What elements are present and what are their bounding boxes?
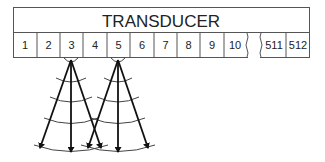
element-label: 4 <box>92 39 98 51</box>
element-label: 5 <box>115 39 121 51</box>
transducer-diagram: TRANSDUCER 1 2 3 4 5 6 7 8 9 10 511 512 <box>0 0 325 162</box>
element-label: 2 <box>45 39 51 51</box>
element-label: 512 <box>289 39 307 51</box>
element-label: 511 <box>265 39 283 51</box>
element-label: 7 <box>162 39 168 51</box>
element-label: 8 <box>185 39 191 51</box>
beam-element-5 <box>81 58 155 152</box>
break-mark <box>246 33 262 58</box>
title-label: TRANSDUCER <box>102 12 220 31</box>
beam-element-3 <box>34 58 108 152</box>
element-label: 9 <box>209 39 215 51</box>
element-label: 6 <box>139 39 145 51</box>
element-label: 1 <box>22 39 28 51</box>
element-label: 10 <box>229 39 241 51</box>
element-label: 3 <box>68 39 74 51</box>
